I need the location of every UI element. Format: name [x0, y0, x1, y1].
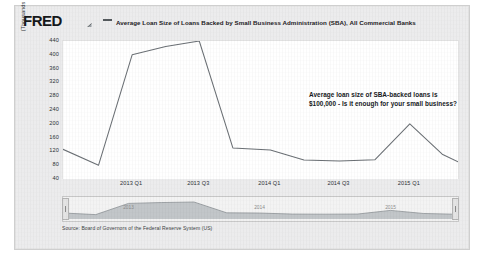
fred-logo[interactable]: FRED: [23, 12, 62, 29]
y-axis-tick-label: 320: [49, 78, 59, 84]
fred-chart-card: FRED Average Loan Size of Loans Backed b…: [14, 5, 470, 250]
grip-icon: [455, 206, 456, 212]
chart-mark-icon: [79, 18, 92, 27]
minimap-year-label: 2015: [385, 205, 396, 210]
x-axis-tick-label: 2013 Q1: [120, 180, 142, 186]
range-handle-left[interactable]: [62, 198, 69, 220]
grip-icon: [65, 206, 66, 212]
y-axis-ticks: 4404003603202802402001601208040: [33, 34, 59, 184]
y-axis-title: (Thousands of Dollars): [20, 0, 26, 58]
range-slider-minimap[interactable]: 201320142015: [62, 196, 459, 222]
x-axis-tick-label: 2014 Q3: [327, 180, 349, 186]
y-axis-tick-label: 440: [49, 37, 59, 43]
x-axis-ticks: 2013 Q12013 Q32014 Q12014 Q32015 Q1: [62, 180, 457, 192]
y-axis-tick-label: 280: [49, 92, 59, 98]
chart-annotation: Average loan size of SBA-backed loans is…: [309, 90, 459, 109]
chart-header: FRED Average Loan Size of Loans Backed b…: [15, 6, 469, 34]
minimap-year-label: 2014: [254, 205, 265, 210]
y-axis-tick-label: 40: [53, 175, 59, 181]
screenshot-root: FRED Average Loan Size of Loans Backed b…: [0, 0, 482, 259]
x-axis-tick-label: 2014 Q1: [258, 180, 280, 186]
source-note: Source: Board of Governors of the Federa…: [62, 225, 212, 231]
y-axis-tick-label: 400: [49, 51, 59, 57]
y-axis-tick-label: 120: [49, 147, 59, 153]
legend-series-label: Average Loan Size of Loans Backed by Sma…: [116, 19, 416, 26]
range-handle-right[interactable]: [452, 198, 459, 220]
y-axis-tick-label: 80: [53, 161, 59, 167]
plot-region: (Thousands of Dollars) 44040036032028024…: [15, 34, 469, 194]
y-axis-tick-label: 360: [49, 65, 59, 71]
y-axis-tick-label: 240: [49, 106, 59, 112]
y-axis-tick-label: 160: [49, 134, 59, 140]
y-axis-tick-label: 200: [49, 120, 59, 126]
legend-line-swatch: [103, 19, 112, 21]
plot-area: Average loan size of SBA-backed loans is…: [62, 40, 459, 179]
x-axis-tick-label: 2013 Q3: [187, 180, 209, 186]
minimap-year-label: 2013: [123, 205, 134, 210]
series-line-chart: [63, 41, 458, 179]
chart-legend: Average Loan Size of Loans Backed by Sma…: [103, 11, 455, 29]
x-axis-tick-label: 2015 Q1: [398, 180, 420, 186]
